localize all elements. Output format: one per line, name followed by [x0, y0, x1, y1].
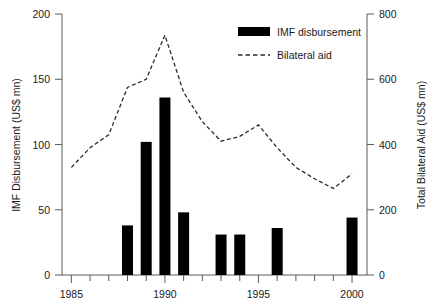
- bar: [216, 235, 227, 275]
- legend-swatch-imf-disbursement: [238, 27, 270, 36]
- bar: [159, 98, 170, 275]
- x-tick-label: 1990: [153, 288, 177, 300]
- left-tick-label: 0: [44, 269, 50, 281]
- right-tick-label: 400: [379, 139, 397, 151]
- bar: [234, 235, 245, 275]
- left-axis-tick-labels: 050100150200: [32, 8, 50, 281]
- right-tick-label: 800: [379, 8, 397, 20]
- left-axis-ticks: [55, 14, 62, 275]
- right-axis-title: Total Bilateral Aid (US$ mn): [415, 81, 427, 209]
- chart-figure: 050100150200 IMF Disbursement (US$ mn) 0…: [0, 0, 441, 306]
- x-tick-label: 1995: [247, 288, 271, 300]
- right-tick-label: 200: [379, 204, 397, 216]
- bar: [347, 218, 358, 275]
- chart-plot-area: 050100150200 IMF Disbursement (US$ mn) 0…: [0, 0, 441, 306]
- left-tick-label: 200: [32, 8, 50, 20]
- bar-series-imf-disbursement: [122, 98, 358, 275]
- left-axis: 050100150200 IMF Disbursement (US$ mn): [10, 8, 62, 281]
- bar: [272, 228, 283, 275]
- left-tick-label: 150: [32, 73, 50, 85]
- chart-legend: IMF disbursement Bilateral aid: [238, 26, 361, 61]
- x-tick-label: 1985: [60, 288, 84, 300]
- x-axis: 1985199019952000: [60, 275, 367, 300]
- left-tick-label: 50: [38, 204, 50, 216]
- bar: [178, 212, 189, 275]
- left-tick-label: 100: [32, 139, 50, 151]
- x-axis-tick-labels: 1985199019952000: [60, 288, 364, 300]
- right-axis: 0200400600800 Total Bilateral Aid (US$ m…: [367, 8, 427, 281]
- bar: [122, 225, 133, 275]
- right-tick-label: 600: [379, 73, 397, 85]
- x-tick-label: 2000: [340, 288, 364, 300]
- right-axis-ticks: [367, 14, 374, 275]
- legend-label-bilateral-aid: Bilateral aid: [277, 49, 332, 61]
- x-axis-ticks: [71, 275, 352, 283]
- bar: [141, 142, 152, 275]
- legend-label-imf-disbursement: IMF disbursement: [277, 26, 361, 38]
- right-tick-label: 0: [379, 269, 385, 281]
- right-axis-tick-labels: 0200400600800: [379, 8, 397, 281]
- left-axis-title: IMF Disbursement (US$ mn): [10, 78, 22, 212]
